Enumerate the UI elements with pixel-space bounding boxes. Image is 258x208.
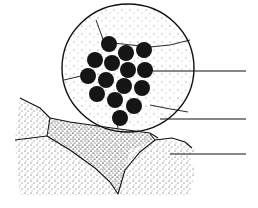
biology-diagram bbox=[0, 0, 258, 208]
